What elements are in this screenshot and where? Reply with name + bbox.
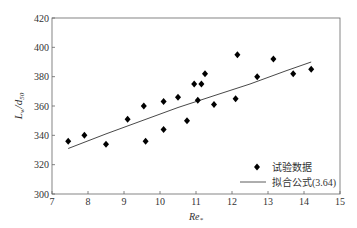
fit-line [68, 62, 311, 149]
legend: 试验数据 拟合公式(3.64) [240, 161, 336, 189]
x-axis-label: Re* [188, 211, 204, 224]
y-axis-label: Lw/d50 [12, 92, 26, 120]
data-point [198, 81, 204, 88]
x-tick-label: 9 [122, 196, 127, 207]
x-tick-label: 7 [50, 196, 55, 207]
y-tick-label: 360 [34, 101, 49, 112]
data-point [290, 70, 296, 77]
data-point [161, 98, 167, 105]
data-point [161, 126, 167, 133]
y-tick-label: 300 [34, 189, 49, 200]
data-point [233, 95, 239, 102]
x-tick-label: 13 [263, 196, 273, 207]
data-point [184, 117, 190, 124]
data-point [81, 132, 87, 139]
data-point [191, 81, 197, 88]
x-tick-label: 14 [299, 196, 309, 207]
data-point [211, 101, 217, 108]
y-tick-label: 340 [34, 130, 49, 141]
data-point [234, 51, 240, 58]
x-tick-label: 12 [227, 196, 237, 207]
data-point [195, 97, 201, 104]
data-point [103, 141, 109, 148]
data-point [270, 56, 276, 63]
legend-diamond-icon [254, 164, 260, 171]
data-point [143, 138, 149, 145]
data-point [65, 138, 71, 145]
y-tick-label: 400 [34, 42, 49, 53]
data-points [65, 51, 314, 147]
data-point [308, 66, 314, 73]
legend-label-points: 试验数据 [272, 161, 312, 173]
data-point [175, 94, 181, 101]
legend-label-line: 拟合公式(3.64) [272, 176, 336, 189]
x-tick-label: 8 [86, 196, 91, 207]
y-tick-label: 380 [34, 71, 49, 82]
x-tick-label: 10 [155, 196, 165, 207]
data-point [254, 73, 260, 80]
y-tick-label: 320 [34, 159, 49, 170]
y-tick-label: 420 [34, 13, 49, 24]
data-point [202, 70, 208, 77]
x-tick-label: 11 [191, 196, 201, 207]
data-point [141, 103, 147, 110]
scatter-chart: 789101112131415300320340360380400420 Lw/… [0, 0, 357, 228]
data-point [125, 116, 131, 123]
x-tick-label: 15 [335, 196, 345, 207]
